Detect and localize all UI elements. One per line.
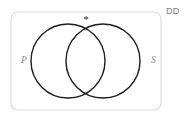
set-circle-s: [66, 24, 140, 98]
asterisk-point-marker: *: [83, 13, 89, 25]
set-label-s: S: [151, 55, 156, 65]
set-label-p: P: [20, 55, 27, 65]
venn-diagram-figure: P S DD *: [0, 0, 187, 121]
venn-diagram-canvas: P S DD *: [0, 0, 187, 121]
set-circle-p: [31, 24, 105, 98]
universal-set-label: DD: [166, 6, 180, 16]
universal-set-rectangle: [11, 12, 161, 110]
